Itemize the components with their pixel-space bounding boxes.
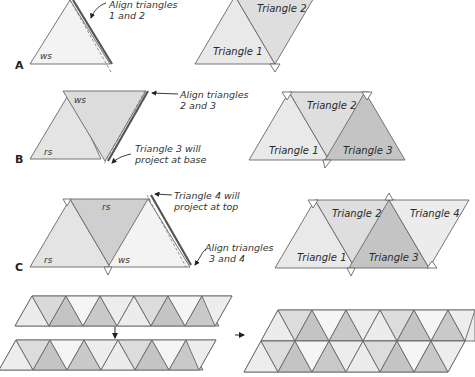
- label-triangle-1: Triangle 1: [213, 46, 263, 57]
- callout-c1-line1: Triangle 4 will: [174, 190, 240, 201]
- strip-2: [0, 340, 216, 370]
- callout-b1-line1: Align triangles: [179, 89, 248, 100]
- callout-b2-line1: Triangle 3 will: [135, 143, 201, 154]
- step-b-right: Triangle 1 Triangle 2 Triangle 3: [249, 92, 405, 168]
- step-c: C rs rs ws Triangle 4 will project at to…: [15, 190, 469, 276]
- callout-b1-line2: 2 and 3: [180, 100, 216, 111]
- label-rs-top: rs: [102, 202, 111, 212]
- callout-arrow: [91, 3, 106, 18]
- tip-bottom: [104, 267, 112, 275]
- callout-arrow-bottom: [112, 154, 131, 163]
- label-triangle-2: Triangle 2: [332, 208, 382, 219]
- bottom-strips: [0, 296, 475, 372]
- callout-c2-line2: 3 and 4: [209, 253, 245, 264]
- step-label-a: A: [15, 59, 24, 72]
- strip-piecing-diagram: A ws Align triangles 1 and 2 Triangle 1 …: [0, 0, 475, 377]
- step-a: A ws Align triangles 1 and 2 Triangle 1 …: [15, 0, 315, 72]
- callout-c2-line1: Align triangles: [204, 242, 273, 253]
- label-triangle-3: Triangle 3: [343, 145, 393, 156]
- step-b: B ws rs Align triangles 2 and 3 Triangle…: [15, 89, 405, 168]
- label-triangle-1: Triangle 1: [269, 145, 319, 156]
- label-ws: ws: [118, 255, 130, 265]
- label-ws: ws: [40, 51, 52, 61]
- tip-bottom: [347, 268, 355, 276]
- callout-arrow-top: [155, 194, 172, 195]
- callout-arrow-top: [152, 93, 178, 94]
- label-triangle-2: Triangle 2: [257, 3, 307, 14]
- joined-panel: [244, 310, 475, 372]
- step-c-left: rs rs ws Triangle 4 will project at top …: [30, 190, 273, 275]
- step-a-right: Triangle 1 Triangle 2: [195, 0, 315, 72]
- step-c-right: Triangle 1 Triangle 2 Triangle 3 Triangl…: [275, 193, 469, 276]
- step-label-c: C: [15, 261, 23, 274]
- callout-a-line2: 1 and 2: [109, 10, 145, 21]
- tip-top: [385, 193, 393, 200]
- label-triangle-1: Triangle 1: [297, 252, 347, 263]
- triangle-tip: [270, 64, 280, 72]
- label-triangle-3: Triangle 3: [369, 252, 419, 263]
- step-b-left: ws rs Align triangles 2 and 3 Triangle 3…: [30, 89, 248, 165]
- step-label-b: B: [15, 153, 23, 166]
- label-rs-bottom: rs: [44, 255, 53, 265]
- tip-bottom: [323, 160, 331, 168]
- label-triangle-2: Triangle 2: [307, 100, 357, 111]
- strip-1: [15, 296, 232, 326]
- label-triangle-4: Triangle 4: [410, 208, 460, 219]
- callout-b2-line2: project at base: [134, 154, 207, 165]
- step-a-left: ws Align triangles 1 and 2: [30, 0, 177, 72]
- callout-a-line1: Align triangles: [108, 0, 177, 10]
- label-rs: rs: [44, 147, 53, 157]
- callout-c1-line2: project at top: [173, 201, 238, 212]
- label-ws: ws: [74, 95, 86, 105]
